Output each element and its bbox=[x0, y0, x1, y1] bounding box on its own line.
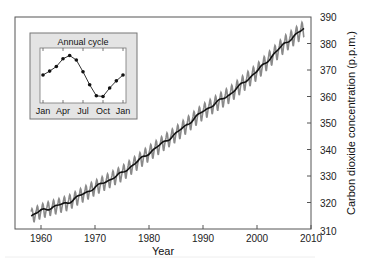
x-tick-label: 1990 bbox=[192, 233, 215, 244]
inset-marker bbox=[121, 73, 125, 77]
y-axis-title: Carbon dioxide concentration (p.p.m.) bbox=[345, 31, 357, 215]
y-tick-label: 360 bbox=[320, 92, 337, 103]
inset-x-tick-label: Jul bbox=[77, 106, 89, 116]
y-tick-label: 330 bbox=[320, 171, 337, 182]
inset-marker bbox=[41, 73, 45, 77]
inset-marker bbox=[95, 94, 99, 98]
y-tick-label: 320 bbox=[320, 198, 337, 209]
y-tick-label: 340 bbox=[320, 145, 337, 156]
keeling-curve-chart: 196019701980199020002010 310320330340350… bbox=[0, 0, 371, 278]
x-tick-label: 1970 bbox=[84, 233, 107, 244]
inset-x-tick-label: Oct bbox=[96, 106, 111, 116]
inset-marker bbox=[115, 79, 119, 83]
annual-cycle-inset: Annual cycle JanAprJulOctJan bbox=[30, 33, 137, 119]
inset-x-tick-label: Apr bbox=[56, 106, 70, 116]
y-tick-label: 310 bbox=[320, 226, 337, 237]
inset-marker bbox=[88, 83, 92, 87]
x-tick-label: 1980 bbox=[138, 233, 161, 244]
y-tick-label: 390 bbox=[320, 12, 337, 23]
inset-plot-area bbox=[40, 48, 126, 103]
inset-marker bbox=[108, 86, 112, 90]
y-tick-label: 350 bbox=[320, 118, 337, 129]
inset-x-tick-label: Jan bbox=[116, 106, 131, 116]
y-axis: 310320330340350360370380390 bbox=[307, 12, 337, 237]
inset-marker bbox=[61, 57, 65, 61]
x-axis-title: Year bbox=[152, 245, 175, 257]
inset-marker bbox=[81, 70, 85, 74]
inset-marker bbox=[75, 58, 79, 62]
inset-title: Annual cycle bbox=[57, 37, 108, 47]
inset-marker bbox=[48, 69, 52, 73]
y-tick-label: 370 bbox=[320, 65, 337, 76]
x-tick-label: 1960 bbox=[30, 233, 53, 244]
inset-marker bbox=[68, 54, 72, 58]
inset-marker bbox=[55, 65, 59, 69]
x-tick-label: 2000 bbox=[246, 233, 269, 244]
y-tick-label: 380 bbox=[320, 39, 337, 50]
inset-marker bbox=[101, 95, 105, 99]
inset-x-tick-label: Jan bbox=[36, 106, 51, 116]
